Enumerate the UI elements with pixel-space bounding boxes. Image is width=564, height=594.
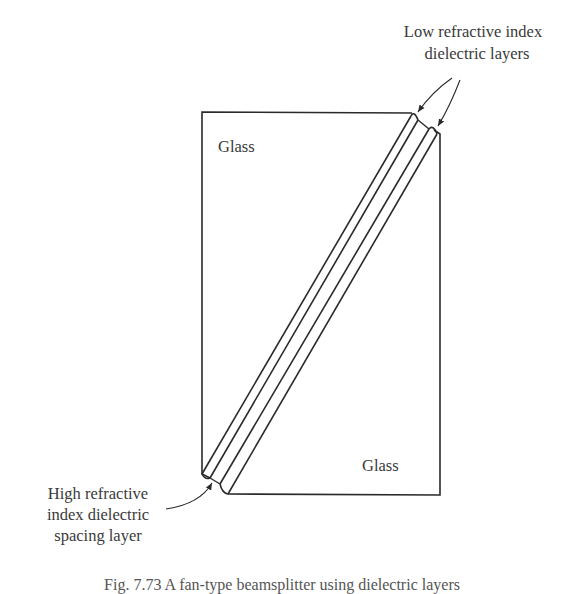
low-index-label-line1: Low refractive index bbox=[388, 22, 558, 42]
high-index-spacer bbox=[210, 120, 429, 484]
high-index-label-line1: High refractive bbox=[28, 484, 168, 504]
glass-label-upper: Glass bbox=[218, 137, 255, 157]
high-index-annotation: High refractive index dielectric spacing… bbox=[28, 484, 168, 544]
low-index-annotation: Low refractive index dielectric layers bbox=[382, 22, 564, 62]
low-index-layer-1 bbox=[202, 114, 418, 479]
glass-label-lower: Glass bbox=[362, 456, 399, 476]
leader-arrow-high-index bbox=[166, 483, 212, 509]
low-index-label-line2: dielectric layers bbox=[392, 44, 562, 64]
figure-caption: Fig. 7.73 A fan-type beamsplitter using … bbox=[0, 576, 564, 594]
high-index-label-line3: spacing layer bbox=[28, 526, 168, 546]
leader-arrows-low-index bbox=[418, 78, 460, 126]
low-index-layer-2 bbox=[220, 127, 437, 494]
high-index-label-line2: index dielectric bbox=[28, 505, 168, 525]
